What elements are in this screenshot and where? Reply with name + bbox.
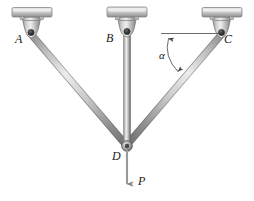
label-alpha: α	[159, 50, 165, 61]
label-c: C	[224, 33, 232, 45]
figure-canvas: A B C D P α	[0, 0, 254, 201]
label-a: A	[15, 33, 22, 45]
member-ad	[28, 31, 131, 149]
angle-arc	[167, 39, 178, 72]
member-cd	[124, 31, 225, 147]
member-bd	[123, 30, 130, 148]
label-p: P	[138, 175, 145, 187]
joint-d	[122, 141, 133, 152]
pin-b	[124, 28, 130, 34]
pin-a	[28, 29, 34, 35]
label-b: B	[106, 32, 113, 44]
label-d: D	[112, 150, 121, 162]
truss-drawing	[0, 0, 254, 201]
